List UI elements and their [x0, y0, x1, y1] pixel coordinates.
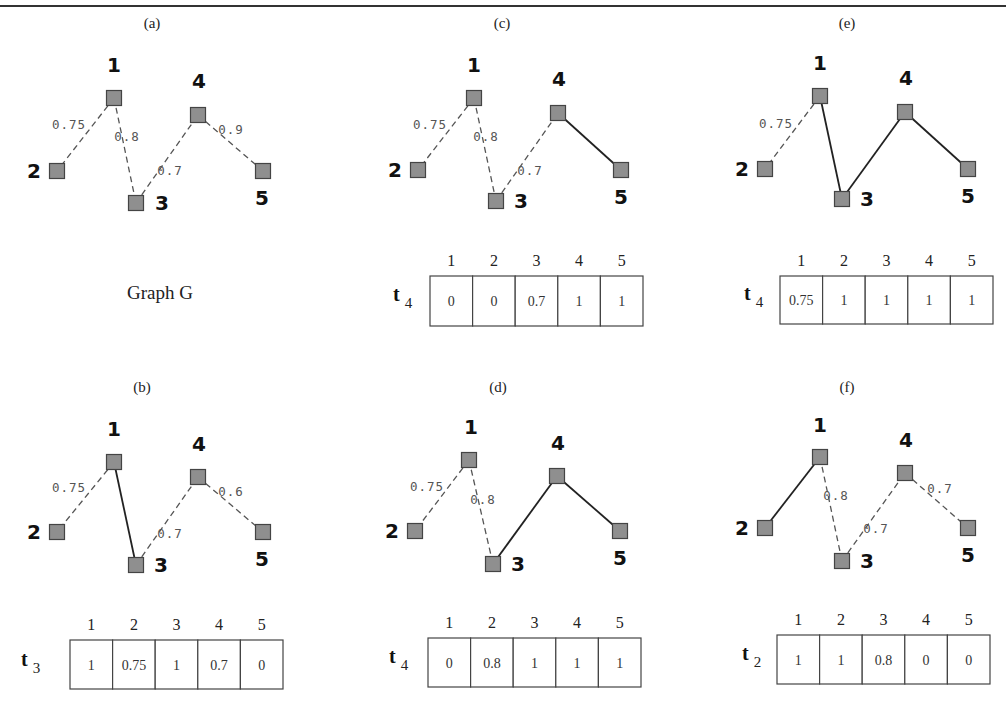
panel-a: (a)0.750.80.70.912345 [27, 15, 270, 215]
node-label-4: 4 [551, 431, 565, 455]
node-square-4 [551, 106, 566, 121]
column-header: 1 [797, 252, 805, 269]
cell-value: 1 [926, 293, 933, 308]
node-label-4: 4 [192, 432, 206, 456]
cell-value: 1 [968, 293, 975, 308]
column-header: 4 [925, 252, 933, 269]
node-label-4: 4 [192, 69, 206, 93]
dashed-edge-3-4 [136, 477, 198, 565]
node-label-1: 1 [107, 417, 121, 441]
edge-weight-1-3: 0.8 [114, 129, 140, 144]
panel-caption: (c) [494, 15, 511, 32]
column-header: 5 [616, 614, 624, 631]
vector-table: t2112130.84050 [742, 611, 990, 684]
cell-value: 1 [173, 658, 180, 673]
row-label: t2 [742, 642, 761, 670]
column-header: 1 [447, 252, 455, 269]
column-header: 2 [488, 614, 496, 631]
node-label-5: 5 [255, 547, 269, 571]
node-square-3 [129, 196, 144, 211]
edges: 0.750.8 [410, 460, 620, 564]
cell-value: 1 [531, 656, 538, 671]
node-square-4 [191, 108, 206, 123]
edge-weight-1-3: 0.8 [470, 492, 496, 507]
dashed-edge-3-4 [136, 115, 198, 203]
panel-caption: (b) [133, 379, 151, 396]
column-header: 5 [258, 616, 266, 633]
node-label-1: 1 [467, 53, 481, 77]
panels-group: (a)0.750.80.70.912345(c)0.750.80.712345t… [21, 15, 993, 689]
node-label-1: 1 [813, 51, 827, 75]
cell-value: 1 [840, 293, 847, 308]
cell-value: 0 [923, 653, 930, 668]
vector-table: t31120.753140.750 [21, 616, 283, 689]
node-square-1 [813, 89, 828, 104]
node-label-5: 5 [961, 543, 975, 567]
edge-weight-1-3: 0.8 [823, 488, 849, 503]
edge-weight-3-4: 0.7 [863, 521, 889, 536]
solid-edge-3-4 [493, 476, 557, 564]
edge-weight-3-4: 0.7 [157, 163, 183, 178]
node-square-1 [107, 455, 122, 470]
edges: 0.75 [759, 96, 968, 199]
vector-table: t41020.8314151 [389, 614, 641, 687]
dashed-edge-1-2 [415, 460, 469, 531]
edge-weight-4-5: 0.7 [927, 481, 953, 496]
node-square-4 [898, 105, 913, 120]
panel-caption: (f) [840, 379, 855, 396]
edges: 0.80.70.7 [765, 457, 968, 561]
cell-value: 1 [618, 294, 625, 309]
edges: 0.750.80.70.9 [52, 98, 263, 203]
column-header: 2 [837, 611, 845, 628]
node-label-5: 5 [961, 184, 975, 208]
dashed-edge-1-3 [474, 98, 496, 201]
node-label-1: 1 [107, 53, 121, 77]
cell-value: 1 [795, 653, 802, 668]
node-square-3 [486, 557, 501, 572]
edge-weight-1-2: 0.75 [759, 116, 793, 131]
node-label-5: 5 [614, 185, 628, 209]
node-square-5 [256, 525, 271, 540]
column-header: 1 [445, 614, 453, 631]
edge-weight-3-4: 0.7 [157, 526, 183, 541]
vector-table: t410.7521314151 [744, 252, 993, 324]
column-header: 4 [922, 611, 930, 628]
graph-caption: Graph G [127, 282, 193, 303]
dashed-edge-1-2 [57, 462, 114, 532]
cell-value: 0 [965, 653, 972, 668]
solid-edge-1-3 [820, 96, 842, 199]
dashed-edge-1-3 [469, 460, 493, 564]
node-square-4 [550, 469, 565, 484]
panel-d: (d)0.750.812345t41020.8314151 [385, 379, 641, 687]
panel-e: (e)0.7512345t410.7521314151 [735, 15, 993, 324]
row-label: t3 [21, 648, 40, 676]
edge-weight-4-5: 0.6 [218, 484, 244, 499]
figure-canvas: Graph G (a)0.750.80.70.912345(c)0.750.80… [0, 0, 1006, 709]
solid-edge-4-5 [905, 112, 968, 169]
panel-f: (f)0.80.70.712345t2112130.84050 [735, 379, 990, 684]
row-label: t4 [393, 283, 413, 311]
panel-caption: (d) [489, 379, 507, 396]
node-square-2 [758, 162, 773, 177]
edge-weight-1-2: 0.75 [52, 117, 86, 132]
node-square-2 [408, 524, 423, 539]
node-label-2: 2 [735, 516, 749, 540]
vector-table: t4102030.74151 [393, 252, 643, 326]
node-label-3: 3 [155, 191, 169, 215]
cell-value: 1 [837, 653, 844, 668]
cell-value: 0 [446, 656, 453, 671]
edge-weight-1-3: 0.8 [473, 129, 499, 144]
nodes: 12345 [385, 415, 627, 576]
cell-value: 0 [258, 658, 265, 673]
node-square-5 [961, 521, 976, 536]
node-label-1: 1 [464, 415, 478, 439]
node-label-4: 4 [552, 67, 566, 91]
node-square-3 [835, 192, 850, 207]
cell-value: 0 [490, 294, 497, 309]
cell-value: 1 [574, 656, 581, 671]
node-square-3 [489, 194, 504, 209]
edge-weight-1-2: 0.75 [413, 117, 447, 132]
column-header: 1 [87, 616, 95, 633]
panel-caption: (e) [839, 15, 856, 32]
node-square-2 [411, 163, 426, 178]
